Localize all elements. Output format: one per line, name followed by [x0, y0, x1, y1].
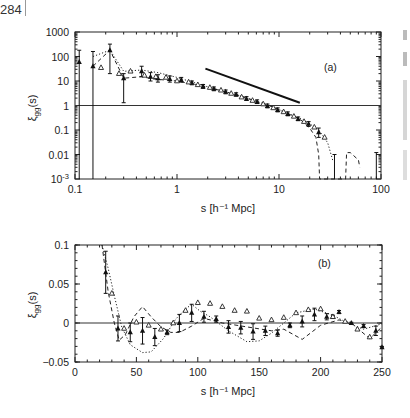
- open-triangle-marker: [355, 326, 360, 331]
- dashed-model-curve: [102, 245, 382, 340]
- open-triangle-marker: [175, 78, 180, 83]
- open-triangle-marker: [163, 75, 168, 80]
- open-triangle-marker: [195, 82, 200, 87]
- filled-triangle-marker: [152, 334, 157, 339]
- open-triangle-marker: [158, 326, 163, 331]
- panel-b-y-axis-label: ξgg(s): [26, 292, 41, 319]
- open-triangle-marker: [122, 326, 127, 331]
- filled-triangle-marker: [103, 269, 108, 274]
- panel-b-y-tick-label: 0.05: [49, 278, 70, 290]
- filled-triangle-marker: [148, 74, 153, 79]
- panel-a-y-tick-label: 10-3: [51, 172, 69, 185]
- filled-triangle-marker: [361, 323, 366, 328]
- dotted-model-curve: [102, 245, 382, 353]
- filled-triangle-marker: [275, 330, 280, 335]
- panel-b-x-axis-label: s [h⁻¹ Mpc]: [201, 385, 255, 397]
- panel-a-x-tick-label: 0.1: [68, 183, 83, 195]
- filled-triangle-marker: [373, 328, 378, 333]
- filled-triangle-marker: [316, 129, 321, 134]
- panel-b-label: (b): [318, 257, 331, 269]
- panel-a-y-tick-label: 100: [51, 51, 69, 63]
- open-triangle-marker: [239, 94, 244, 99]
- open-triangle-marker: [134, 319, 139, 324]
- panel-b-x-tick-label: 0: [72, 366, 78, 378]
- open-triangle-marker: [343, 319, 348, 324]
- open-triangle-marker: [250, 98, 255, 103]
- filled-triangle-marker: [139, 68, 144, 73]
- open-triangle-marker: [312, 124, 317, 129]
- panel-a-x-axis-label: s [h⁻¹ Mpc]: [201, 202, 255, 214]
- filled-triangle-marker: [214, 316, 219, 321]
- open-triangle-marker: [281, 315, 286, 320]
- open-triangle-marker: [195, 300, 200, 305]
- figure: 0.111010010001001010.10.0110-3 (a) s [h⁻…: [0, 0, 410, 418]
- open-triangle-marker: [183, 308, 188, 313]
- panel-b-x-tick-label: 50: [131, 366, 143, 378]
- open-triangle-marker: [207, 85, 212, 90]
- panel-b-ticks: 0501001502002500.10.050−0.05: [42, 239, 390, 378]
- panel-a-ticks: 0.111010010001001010.10.0110-3: [46, 26, 390, 195]
- panel-b-y-tick-label: −0.05: [42, 356, 69, 368]
- panel-a-y-tick-label: 0.1: [54, 124, 69, 136]
- panel-b-y-tick-label: 0.1: [54, 239, 69, 251]
- filled-triangle-marker: [312, 311, 317, 316]
- panel-b-x-tick-label: 150: [250, 366, 268, 378]
- panel-a-x-tick-label: 1: [174, 183, 180, 195]
- open-triangle-marker: [244, 309, 249, 314]
- open-triangle-marker: [116, 71, 121, 76]
- filled-triangle-marker: [336, 309, 341, 314]
- open-triangle-marker: [99, 65, 104, 70]
- open-triangle-marker: [232, 308, 237, 313]
- dashed-model-curve: [93, 50, 360, 179]
- panel-b-series: [75, 245, 385, 353]
- filled-triangle-marker: [263, 328, 268, 333]
- filled-triangle-marker: [128, 329, 133, 334]
- open-triangle-marker: [294, 310, 299, 315]
- open-triangle-marker: [322, 135, 327, 140]
- panel-b-y-tick-label: 0: [63, 317, 69, 329]
- panel-b-chart: 0501001502002500.10.050−0.05 (b) s [h⁻¹ …: [26, 239, 391, 397]
- filled-triangle-marker: [324, 314, 329, 319]
- filled-triangle-marker: [238, 325, 243, 330]
- open-triangle-marker: [269, 317, 274, 322]
- open-triangle-marker: [261, 101, 266, 106]
- filled-triangle-marker: [189, 310, 194, 315]
- open-triangle-marker: [218, 87, 223, 92]
- open-triangle-marker: [128, 68, 133, 73]
- dotted-model-curve: [93, 50, 333, 162]
- panel-a-y-axis-label: ξgg(s): [26, 95, 41, 122]
- panel-a-x-tick-label: 100: [372, 183, 390, 195]
- open-triangle-marker: [229, 91, 234, 96]
- filled-triangle-marker: [250, 329, 255, 334]
- open-triangle-marker: [186, 79, 191, 84]
- panel-a-chart: 0.111010010001001010.10.0110-3 (a) s [h⁻…: [26, 26, 390, 214]
- open-triangle-marker: [109, 291, 114, 296]
- panel-a-label: (a): [324, 61, 337, 73]
- panel-b-x-tick-label: 250: [373, 366, 391, 378]
- filled-triangle-marker: [140, 328, 145, 333]
- panel-a-x-tick-label: 10: [273, 183, 285, 195]
- panel-a-y-tick-label: 1000: [46, 26, 70, 38]
- open-triangle-marker: [257, 316, 262, 321]
- panel-b-frame: [75, 245, 382, 362]
- open-triangle-marker: [281, 109, 286, 114]
- panel-b-x-tick-label: 100: [189, 366, 207, 378]
- open-triangle-marker: [302, 119, 307, 124]
- open-triangle-marker: [306, 307, 311, 312]
- filled-triangle-marker: [300, 318, 305, 323]
- panel-a-y-tick-label: 10: [57, 75, 69, 87]
- open-triangle-marker: [367, 334, 372, 339]
- panel-a-y-tick-label: 0.01: [49, 149, 70, 161]
- open-triangle-marker: [220, 304, 225, 309]
- panel-a-y-tick-label: 1: [63, 100, 69, 112]
- filled-triangle-marker: [107, 47, 112, 52]
- open-triangle-marker: [291, 114, 296, 119]
- open-triangle-marker: [208, 301, 213, 306]
- open-triangle-marker: [318, 306, 323, 311]
- panel-b-x-tick-label: 200: [312, 366, 330, 378]
- filled-triangle-marker: [201, 314, 206, 319]
